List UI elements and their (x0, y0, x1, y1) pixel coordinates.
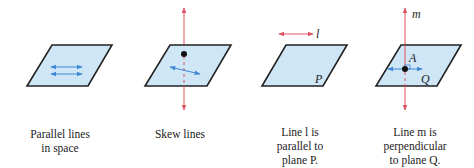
plane-p-label: P (314, 72, 323, 86)
plane-q (376, 45, 461, 86)
figure-skew-lines (145, 8, 231, 110)
caption-line: plane P. (260, 153, 340, 167)
caption-skew-lines: Skew lines (140, 127, 220, 141)
caption-line: perpendicular (365, 139, 465, 153)
caption-line-perpendicular-plane: Line m is perpendicular to plane Q. (365, 125, 465, 167)
point-a-label: A (408, 51, 417, 65)
caption-line: in space (10, 141, 110, 155)
plane (145, 45, 231, 86)
caption-parallel-lines: Parallel lines in space (10, 127, 110, 155)
line-m-label: m (412, 7, 421, 21)
point-a (402, 66, 408, 72)
figure-line-parallel-plane: l P (262, 27, 347, 86)
caption-line: Skew lines (140, 127, 220, 141)
caption-line: Line m is (365, 125, 465, 139)
plane (27, 45, 112, 86)
intersection-point (181, 51, 187, 57)
figure-parallel-lines (27, 45, 112, 86)
caption-line-parallel-plane: Line l is parallel to plane P. (260, 125, 340, 167)
caption-line: Parallel lines (10, 127, 110, 141)
figure-line-perpendicular-plane: m A Q (376, 7, 461, 110)
line-l-label: l (316, 27, 320, 41)
caption-line: to plane Q. (365, 153, 465, 167)
caption-line: Line l is (260, 125, 340, 139)
caption-line: parallel to (260, 139, 340, 153)
plane-q-label: Q (421, 72, 430, 86)
plane-p (262, 45, 347, 86)
